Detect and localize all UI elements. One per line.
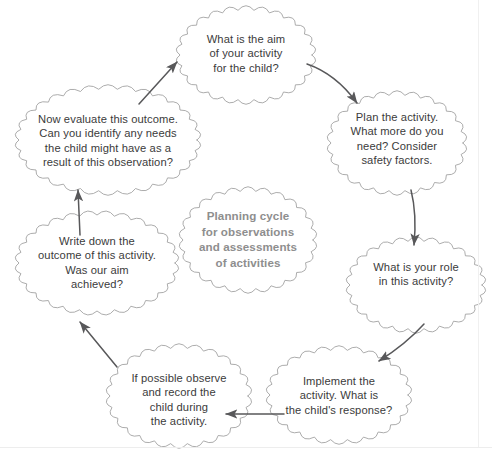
bubble-outcome	[15, 211, 178, 315]
bubble-evaluate	[15, 85, 200, 196]
planning-cycle-diagram	[0, 0, 492, 459]
arrow-plan-to-role	[411, 190, 415, 245]
bubble-role	[346, 237, 485, 334]
bubble-observe	[106, 344, 251, 448]
diagram-page: What is the aim of your activity for the…	[0, 0, 492, 459]
bubble-center	[179, 187, 316, 293]
bubble-plan	[327, 91, 466, 195]
bubble-implement	[266, 346, 411, 445]
arrow-aim-to-plan	[307, 64, 357, 103]
bubble-aim	[176, 6, 315, 105]
arrow-observe-to-outcome	[80, 322, 117, 367]
